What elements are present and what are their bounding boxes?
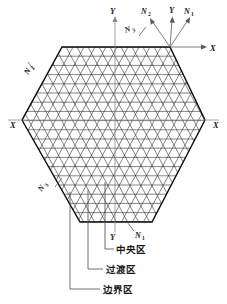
label-n3-top-edge: N 3 <box>122 23 136 36</box>
label-x-right: X <box>212 120 219 130</box>
label-y-local: Y <box>169 5 175 15</box>
svg-text:N: N <box>140 7 148 16</box>
label-x-arrow: X <box>209 43 216 53</box>
n1-arrow-line <box>170 20 188 47</box>
n3-tick-line <box>139 27 146 36</box>
zone-label-central: 中央区 <box>116 244 146 255</box>
label-n2-upper-left: N 2 <box>22 63 36 78</box>
label-y-top: Y <box>110 6 116 16</box>
svg-text:N: N <box>134 231 142 240</box>
n2-arrow-line <box>152 21 170 47</box>
n-y-arrow-line <box>170 20 172 47</box>
label-y-bottom: Y <box>110 232 116 242</box>
mesh-grid <box>0 47 227 232</box>
svg-text:N: N <box>183 7 191 16</box>
svg-text:3: 3 <box>131 27 136 34</box>
svg-text:2: 2 <box>148 11 151 17</box>
normal-vector-arrows <box>139 17 190 48</box>
label-x-left: X <box>9 120 16 130</box>
label-n3-lower-left: N 3 <box>35 180 50 195</box>
svg-text:1: 1 <box>191 11 194 17</box>
label-n1-bottom: N 1 <box>134 231 145 241</box>
label-n1-top-right: N 1 <box>183 7 194 17</box>
y-axis-arrowhead-top <box>112 16 117 22</box>
svg-text:1: 1 <box>142 235 145 241</box>
x-axis-local-arrowhead <box>201 45 207 50</box>
label-n2-top-right: N 2 <box>140 7 151 17</box>
zone-label-transition: 过渡区 <box>106 264 136 275</box>
leader-transition <box>88 190 103 269</box>
zone-label-boundary: 边界区 <box>102 284 133 295</box>
n-y-arrowhead <box>170 17 175 23</box>
n1-bottom-tick <box>127 222 134 231</box>
mesh-figure: Y Y X X X Y N 1 N 2 N 3 N 2 N <box>0 0 227 304</box>
